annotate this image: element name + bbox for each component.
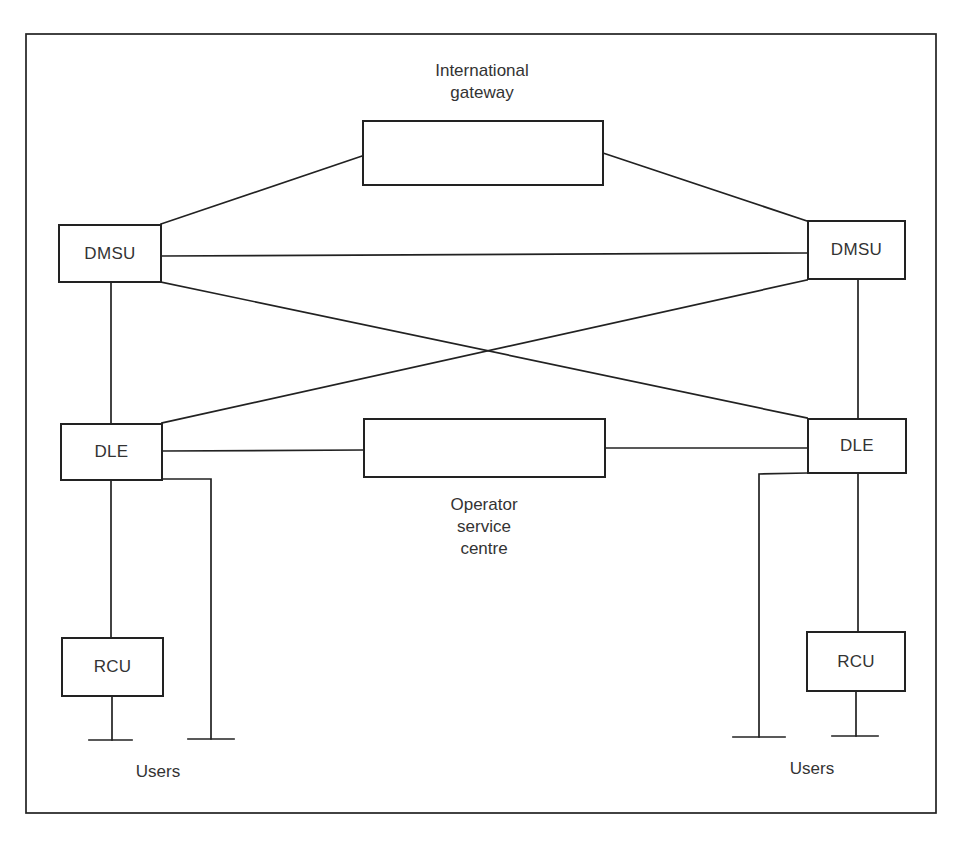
dle-left-label: DLE: [95, 442, 129, 462]
operator-service-centre-caption: Operator service centre: [384, 494, 584, 560]
international-gateway-caption: International gateway: [382, 60, 582, 104]
edge-dle-left-user-branch: [162, 479, 211, 739]
rcu-right-label: RCU: [837, 652, 875, 672]
edge-dle-left-operator: [162, 450, 363, 451]
edge-dmsu-dmsu: [161, 253, 807, 256]
rcu-right-node: RCU: [806, 631, 906, 692]
users-left-label: Users: [118, 761, 198, 783]
dmsu-right-node: DMSU: [807, 220, 906, 280]
users-right-label: Users: [772, 758, 852, 780]
rcu-left-node: RCU: [61, 637, 164, 697]
edge-dmsu-left-gateway: [161, 156, 362, 224]
dmsu-right-label: DMSU: [831, 240, 882, 260]
dle-right-label: DLE: [840, 436, 874, 456]
rcu-left-label: RCU: [94, 657, 132, 677]
edge-dmsu-right-gateway: [603, 153, 807, 221]
edge-dmsu-left-dle-right: [161, 282, 807, 418]
operator-service-centre-node: [363, 418, 606, 478]
international-gateway-node: [362, 120, 604, 186]
dmsu-left-node: DMSU: [58, 224, 162, 283]
dle-left-node: DLE: [60, 423, 163, 481]
dle-right-node: DLE: [807, 418, 907, 474]
edge-dle-right-user-branch: [759, 473, 807, 737]
edge-dmsu-right-dle-left: [162, 280, 807, 423]
dmsu-left-label: DMSU: [84, 244, 135, 264]
